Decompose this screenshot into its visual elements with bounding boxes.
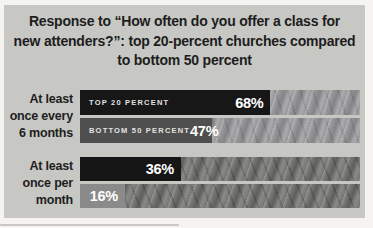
category-label-line: At least bbox=[4, 158, 73, 175]
value-label-68: 68% bbox=[235, 95, 263, 111]
chart-title-line-2: new attenders?”: top 20-percent churches… bbox=[4, 32, 365, 52]
bar-column: TOP 20 PERCENT 68% BOTTOM 50 PERCENT 47% bbox=[80, 90, 360, 143]
category-label-every-6-months: At least once every 6 months bbox=[4, 91, 80, 142]
value-label-16: 16% bbox=[90, 188, 118, 204]
magazine-page: Response to “How often do you offer a cl… bbox=[0, 0, 373, 228]
bar-bottom50-per-month: 16% bbox=[80, 184, 360, 208]
category-label-line: At least bbox=[4, 91, 73, 108]
category-label-line: month bbox=[4, 192, 73, 209]
category-label-line: 6 months bbox=[4, 125, 73, 142]
chart-title-line-1: Response to “How often do you offer a cl… bbox=[4, 12, 365, 32]
bar-top20-per-month: 36% bbox=[80, 157, 360, 181]
category-label-line: once every bbox=[4, 108, 73, 125]
bar-group-per-month: At least once per month 36% 16% bbox=[4, 157, 360, 209]
chart-title: Response to “How often do you offer a cl… bbox=[4, 12, 365, 71]
category-label-per-month: At least once per month bbox=[4, 158, 80, 209]
bar-fill-bottom50: 16% bbox=[80, 184, 125, 208]
bar-bottom50-every-6-months: BOTTOM 50 PERCENT 47% bbox=[80, 118, 360, 143]
bar-column: 36% 16% bbox=[80, 157, 360, 208]
series-label-bottom-50-percent: BOTTOM 50 PERCENT bbox=[89, 126, 190, 135]
bar-fill-top20: TOP 20 PERCENT 68% bbox=[80, 90, 270, 115]
bar-group-every-6-months: At least once every 6 months TOP 20 PERC… bbox=[4, 90, 360, 143]
value-label-47: 47% bbox=[190, 123, 218, 139]
category-label-line: once per bbox=[4, 175, 73, 192]
page-curl-shadow bbox=[0, 224, 179, 226]
bar-fill-top20: 36% bbox=[80, 157, 181, 181]
bar-fill-bottom50: BOTTOM 50 PERCENT 47% bbox=[80, 118, 212, 143]
chart-panel: Response to “How often do you offer a cl… bbox=[4, 5, 365, 218]
chart-title-line-3: to bottom 50 percent bbox=[4, 51, 365, 71]
bar-top20-every-6-months: TOP 20 PERCENT 68% bbox=[80, 90, 360, 115]
series-label-top-20-percent: TOP 20 PERCENT bbox=[89, 98, 169, 107]
value-label-36: 36% bbox=[146, 161, 174, 177]
